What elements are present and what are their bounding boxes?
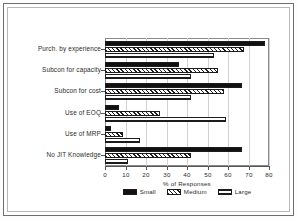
x-tick-mark — [208, 166, 209, 170]
x-tick-mark — [126, 166, 127, 170]
gridline — [249, 38, 250, 166]
legend-item-small: Small — [123, 188, 156, 195]
bar-small — [105, 41, 265, 46]
bar-small — [105, 83, 242, 88]
legend-label-medium: Medium — [184, 188, 207, 195]
x-tick-mark — [269, 166, 270, 170]
y-tick-mark — [101, 113, 105, 114]
y-tick-mark — [101, 134, 105, 135]
chart-figure: 01020304050607080 Purch. by experienceSu… — [0, 0, 297, 219]
y-category-label: Subcon for capacity — [0, 66, 101, 73]
legend-item-medium: Medium — [167, 188, 207, 195]
y-category-label: Use of EOQ — [0, 109, 101, 116]
x-tick-label: 60 — [219, 171, 237, 178]
legend-label-large: Large — [235, 188, 252, 195]
x-tick-mark — [187, 166, 188, 170]
y-tick-mark — [101, 70, 105, 71]
y-category-label: Subcon for cost — [0, 87, 101, 94]
y-tick-mark — [101, 155, 105, 156]
x-tick-mark — [167, 166, 168, 170]
bar-large — [105, 95, 191, 100]
x-tick-label: 10 — [117, 171, 135, 178]
bar-large — [105, 53, 214, 58]
plot-wrapper: 01020304050607080 Purch. by experienceSu… — [0, 0, 297, 219]
bar-small — [105, 147, 242, 152]
bar-large — [105, 74, 191, 79]
x-tick-mark — [146, 166, 147, 170]
legend-label-small: Small — [140, 188, 156, 195]
x-tick-label: 50 — [199, 171, 217, 178]
bar-large — [105, 117, 226, 122]
bar-small — [105, 105, 119, 110]
x-tick-mark — [249, 166, 250, 170]
bar-large — [105, 138, 140, 143]
legend-swatch-medium-icon — [167, 189, 181, 195]
bar-medium — [105, 89, 224, 94]
bar-medium — [105, 47, 244, 52]
bar-small — [105, 62, 179, 67]
x-tick-label: 0 — [96, 171, 114, 178]
y-tick-mark — [101, 91, 105, 92]
y-category-label: Purch. by experience — [0, 45, 101, 52]
y-tick-mark — [101, 49, 105, 50]
bar-large — [105, 159, 128, 164]
x-tick-label: 70 — [240, 171, 258, 178]
bar-medium — [105, 132, 123, 137]
x-tick-mark — [105, 166, 106, 170]
legend-item-large: Large — [218, 188, 252, 195]
x-tick-label: 30 — [158, 171, 176, 178]
bar-medium — [105, 111, 160, 116]
y-category-label: Use of MRP — [0, 130, 101, 137]
chart-legend: Small Medium Large — [105, 188, 269, 195]
bar-small — [105, 126, 111, 131]
bar-medium — [105, 68, 218, 73]
x-tick-label: 80 — [260, 171, 278, 178]
y-category-label: No JIT Knowledge — [0, 151, 101, 158]
x-tick-label: 40 — [178, 171, 196, 178]
legend-swatch-large-icon — [218, 189, 232, 195]
gridline — [269, 38, 270, 166]
bar-medium — [105, 153, 191, 158]
x-tick-label: 20 — [137, 171, 155, 178]
x-axis-title: % of Responses — [105, 180, 269, 187]
x-tick-mark — [228, 166, 229, 170]
legend-swatch-small-icon — [123, 189, 137, 195]
